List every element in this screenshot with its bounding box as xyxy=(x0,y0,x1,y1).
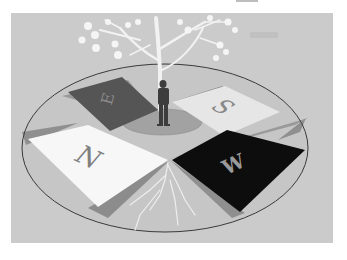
faint-mark xyxy=(250,32,278,38)
compass-illustration: E S N W xyxy=(0,0,347,260)
